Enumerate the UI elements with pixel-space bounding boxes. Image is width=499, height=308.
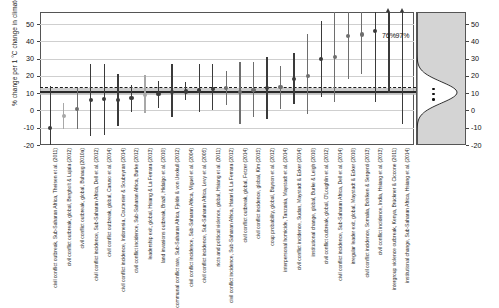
y-tick-mark [37, 110, 40, 111]
density-curve [417, 13, 466, 145]
truncation-percent-label: 97% [391, 32, 413, 39]
right-tick-mark [466, 76, 469, 77]
gridline [40, 128, 414, 129]
right-tick-mark [466, 145, 469, 146]
estimate-point [197, 88, 201, 92]
gridline [40, 76, 414, 77]
confidence-interval-whisker [50, 86, 51, 145]
y-tick-label: 20 [18, 71, 34, 80]
x-axis-study-label: civil conflict incidence, Sub-Saharan Af… [228, 148, 234, 303]
y-tick-mark [37, 24, 40, 25]
right-tick-mark [466, 128, 469, 129]
estimate-point [143, 93, 147, 97]
x-axis-study-label: riots and political violence, global, Hs… [215, 148, 221, 266]
estimate-point [89, 98, 93, 102]
y-tick-mark [37, 59, 40, 60]
gridline [40, 110, 414, 111]
y-tick-mark [37, 128, 40, 129]
confidence-interval-whisker [348, 12, 349, 79]
x-axis-study-label: intergroup violence outbreak, Kenya, Brü… [391, 148, 397, 290]
x-axis-study-label: institutional change, Sub-Saharan Africa… [404, 148, 410, 283]
estimate-point [251, 88, 255, 92]
y-tick-label: 40 [18, 37, 34, 46]
density-panel [416, 12, 466, 145]
y-tick-label: 50 [18, 20, 34, 29]
density-dot [432, 88, 435, 91]
x-axis-study-label: irregular leader exit, global, Maystadt … [350, 148, 356, 264]
estimate-point [62, 114, 66, 118]
right-tick-label: 40 [471, 37, 489, 46]
x-axis-study-label: land invasions outbreak, Brazil, Hidalgo… [160, 148, 166, 263]
x-axis-study-label: civil conflict incidence, Sub-Saharan Af… [93, 148, 99, 281]
arrow-up-icon [400, 8, 404, 12]
estimate-point [48, 126, 52, 130]
right-tick-label: -10 [471, 123, 489, 132]
estimate-point [211, 87, 215, 91]
x-axis-study-label: civil conflict incidence, Sub-Saharan Af… [188, 148, 194, 287]
gridline [40, 24, 414, 25]
x-axis-study-label: institutional change, global, Burke & Le… [310, 148, 316, 257]
density-dot [432, 98, 435, 101]
right-tick-mark [466, 59, 469, 60]
x-axis-study-label: civil conflict incidence, Sub-Saharan Af… [337, 148, 343, 281]
right-tick-mark [466, 93, 469, 94]
estimate-point [306, 74, 310, 78]
right-tick-mark [466, 41, 469, 42]
estimate-point [116, 98, 120, 102]
right-tick-label: 10 [471, 89, 489, 98]
y-tick-label: 0 [18, 106, 34, 115]
x-axis-study-label: civil conflict incidence, Sub-Saharan Af… [133, 148, 139, 273]
x-axis-study-label: civil conflict outbreak, global, Berghol… [66, 148, 72, 266]
gridline [40, 59, 414, 60]
mean-line [40, 91, 416, 92]
y-tick-label: -20 [18, 141, 34, 150]
plot-area [40, 12, 414, 145]
right-tick-label: -20 [471, 141, 489, 150]
x-axis-study-label: civil conflict incidence, India, Hsiang … [377, 148, 383, 255]
x-axis-study-label: civil conflict outbreak, global, Buhaug … [79, 148, 85, 248]
confidence-interval-whisker [361, 12, 362, 74]
confidence-interval-whisker [375, 12, 376, 102]
gridline [40, 41, 414, 42]
confidence-interval-whisker [388, 12, 389, 93]
x-axis-study-label: coup probability, global, Bayson et al. … [269, 148, 275, 246]
y-tick-label: 10 [18, 89, 34, 98]
right-tick-mark [466, 24, 469, 25]
x-axis-study-label: civil conflict incidence, global, Kim (2… [255, 148, 261, 239]
estimate-point [360, 32, 364, 36]
x-axis-study-label: civil conflict outbreak, global, Caruso … [106, 148, 112, 257]
x-axis-study-label: civil conflict incidence, Somalia, Bohlk… [364, 148, 370, 278]
x-axis-study-label: civil conflict outbreak, Sub-Saharan Afr… [52, 148, 58, 288]
y-tick-label: 30 [18, 54, 34, 63]
y-tick-mark [37, 76, 40, 77]
right-tick-label: 50 [471, 20, 489, 29]
y-tick-mark [37, 145, 40, 146]
estimate-point [319, 57, 323, 61]
x-axis-study-label: leadership exit, global, Hsiang & La Fer… [147, 148, 153, 260]
right-tick-label: 20 [471, 71, 489, 80]
x-axis-study-label: civil conflict incidence, Sub-Saharan Af… [201, 148, 207, 283]
y-axis-label: % change per 1 °C change in climate [11, 0, 18, 122]
x-axis-study-label: civil conflict incidence, Indonesia, Cou… [120, 148, 126, 292]
arrow-up-icon [386, 8, 390, 12]
estimate-point [278, 85, 282, 89]
x-axis-study-label: interpersonal homicide, Tanzania, Maysta… [282, 148, 288, 272]
y-tick-mark [37, 41, 40, 42]
estimate-point [333, 55, 337, 59]
right-tick-label: 30 [471, 54, 489, 63]
x-axis-study-label: civil conflict outbreak, global, O'Lough… [323, 148, 329, 264]
estimate-point [184, 89, 188, 93]
x-axis-study-label: civil conflict incidence, Sudan, Maystad… [296, 148, 302, 270]
estimate-point [156, 92, 160, 96]
right-tick-label: 0 [471, 106, 489, 115]
right-tick-mark [466, 110, 469, 111]
x-axis-study-label: communal conflict rate, Sub-Saharan Afri… [174, 148, 180, 308]
y-tick-label: -10 [18, 123, 34, 132]
x-axis-study-label: civil conflict outbreak, global, Fetzer … [242, 148, 248, 243]
confidence-interval-whisker [402, 12, 403, 124]
